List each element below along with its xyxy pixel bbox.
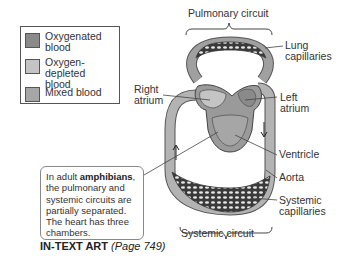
legend-label: Mixed blood bbox=[45, 87, 120, 98]
left-atrium-label: Leftatrium bbox=[280, 92, 309, 114]
pulmonary-circuit-label: Pulmonary circuit bbox=[188, 8, 269, 19]
caption-title: IN-TEXT ART bbox=[40, 240, 108, 252]
right-atrium-label: Rightatrium bbox=[134, 84, 163, 106]
systemic-circuit-label: Systemic circuit bbox=[181, 228, 254, 239]
legend-item-oxygenated: Oxygenated blood bbox=[25, 31, 120, 53]
caption-page: (Page 749) bbox=[111, 240, 165, 252]
ventricle-label: Ventricle bbox=[279, 149, 319, 160]
pulmonary-brace bbox=[186, 23, 272, 35]
legend-label: blood bbox=[45, 41, 71, 53]
legend-item-mixed: Mixed blood bbox=[25, 85, 120, 102]
callout-bold-term: amphibians bbox=[80, 171, 133, 182]
systemic-capillaries-label: Systemiccapillaries bbox=[279, 195, 326, 217]
legend-label: Oxygen-depleted bbox=[45, 56, 85, 79]
mixed-swatch bbox=[25, 87, 40, 102]
oxygenated-swatch bbox=[25, 33, 40, 48]
oxygen-depleted-swatch bbox=[25, 59, 40, 74]
lung-capillaries-label: Lungcapillaries bbox=[285, 40, 332, 62]
aorta-label: Aorta bbox=[279, 172, 304, 183]
amphibian-callout: In adult amphibians, the pulmonary and s… bbox=[40, 166, 144, 240]
legend: Oxygenated blood Oxygen-depleted blood M… bbox=[20, 26, 120, 104]
figure-caption: IN-TEXT ART(Page 749) bbox=[40, 240, 165, 252]
